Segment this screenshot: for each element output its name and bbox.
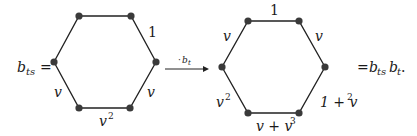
vertex-icon <box>295 17 302 24</box>
edge-label-top: 1 <box>270 2 279 18</box>
left-hexagon: 1 v v v 2 <box>50 12 159 129</box>
edge-label-bottom-sup: 3 <box>290 116 296 126</box>
edge-label-top-left: v <box>223 28 231 44</box>
edge-label-bottom-left: v <box>216 94 224 110</box>
edge-label-bottom-right-sup: 2 <box>347 92 353 102</box>
hexagon-diagram: b ts = 1 v v v 2 · b t 1 v v v <box>0 0 417 136</box>
left-hexagon-edges <box>54 16 156 108</box>
lhs-equals: = <box>40 59 52 75</box>
edge-label-bottom-right: v <box>147 84 155 100</box>
right-expression: = b ts b t . <box>357 59 405 77</box>
vertex-icon <box>321 63 328 70</box>
edge-label-bottom-left-sup: 2 <box>225 92 231 102</box>
edge-label-bottom: v + v <box>256 118 293 134</box>
rhs-subscript-1: ts <box>377 66 386 77</box>
rhs-period: . <box>401 59 405 75</box>
right-hexagon: 1 v v v 2 1 + v 2 v + v 3 <box>216 2 358 134</box>
vertex-icon <box>152 58 159 65</box>
vertex-icon <box>127 12 134 19</box>
edge-label-top-right: 1 <box>148 24 157 40</box>
edge-label-bottom-left: v <box>54 84 62 100</box>
arrow-label-sub: t <box>188 59 191 67</box>
lhs-subscript: ts <box>26 66 35 77</box>
vertex-icon <box>218 63 225 70</box>
right-hexagon-edges <box>222 21 325 113</box>
edge-label-bottom: v <box>99 113 107 129</box>
vertex-icon <box>295 109 302 116</box>
vertex-icon <box>244 109 251 116</box>
left-expression: b ts = <box>17 59 52 77</box>
lhs-base: b <box>17 59 26 75</box>
edge-label-bottom-sup: 2 <box>108 111 114 121</box>
vertex-icon <box>126 104 133 111</box>
multiply-arrow: · b t <box>165 55 209 72</box>
vertex-icon <box>244 17 251 24</box>
vertex-icon <box>50 58 57 65</box>
arrow-head-icon <box>203 66 209 72</box>
edge-label-top-right: v <box>315 28 323 44</box>
vertex-icon <box>75 12 82 19</box>
arrow-label-dot: · <box>178 55 181 65</box>
vertex-icon <box>75 104 82 111</box>
rhs-equals: = <box>357 59 369 75</box>
